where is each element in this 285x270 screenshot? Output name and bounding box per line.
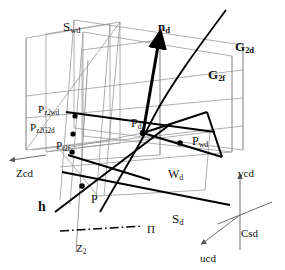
label-point-pz2g2d: Pz2G2d [30, 122, 54, 135]
label-point-pz2wd: Pz2wd [38, 104, 59, 117]
point-marker-pd [140, 130, 146, 136]
label-plane-g2f: G2f [208, 68, 225, 82]
point-marker-pz2g2d [70, 131, 75, 136]
label-plane-swd: Swd [63, 20, 80, 34]
label-frame-csd: Csd [241, 228, 258, 241]
label-plane-pi: Π [147, 224, 155, 237]
label-line-h: h [38, 200, 46, 215]
csd-frame-group [203, 176, 272, 250]
diagram-canvas: Swd G2d G2f Wd nd Pz2wd Pz2G2d Pr2f Pd P… [0, 0, 285, 270]
ruling-line-3 [96, 24, 110, 200]
point-marker-p [79, 183, 85, 189]
normal-vector-nd [143, 40, 159, 133]
point-marker-pr2f [69, 149, 74, 154]
label-axis-z2: Z2 [76, 243, 86, 256]
label-normal-nd: nd [158, 20, 170, 34]
label-axis-zcd: Zcd [16, 168, 33, 181]
label-point-pr2f: Pr2f [56, 140, 70, 153]
label-point-pwd: Pwd [192, 135, 208, 149]
label-plane-wd: Wd [168, 168, 183, 182]
label-line-sd: Sd [172, 212, 183, 226]
label-point-p: P [91, 193, 98, 207]
label-axis-ucd: ucd [200, 253, 216, 266]
axis-ucd-arrow [203, 215, 240, 243]
point-marker-pz2wd [72, 113, 77, 118]
point-marker-pwd [177, 140, 183, 146]
curve-through-pd [100, 10, 226, 212]
axis-zcd-arrow [12, 155, 46, 160]
axis-third-line [218, 202, 272, 224]
label-plane-g2d: G2d [235, 40, 254, 54]
label-point-pd: Pd [131, 117, 141, 131]
label-axis-vcd: vcd [238, 168, 254, 181]
plane-g2d-outline [74, 20, 243, 150]
ruling-line-2 [70, 32, 83, 205]
plane-pi-dashdot-line [60, 226, 143, 231]
